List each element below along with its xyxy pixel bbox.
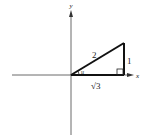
angle-label: u <box>81 69 84 75</box>
hypotenuse <box>71 43 124 75</box>
opposite-label: 1 <box>127 56 132 66</box>
triangle-diagram: y x 2 1 √3 u <box>0 0 146 135</box>
x-axis-arrow-icon <box>127 73 134 77</box>
adjacent-label: √3 <box>91 81 101 91</box>
hypotenuse-label: 2 <box>92 50 97 60</box>
y-axis-label: y <box>69 2 74 10</box>
x-axis-label: x <box>135 72 140 80</box>
y-axis-arrow-icon <box>69 10 73 17</box>
